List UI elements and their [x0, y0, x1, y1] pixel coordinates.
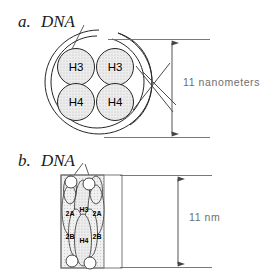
micro-label-2a-right: 2A	[93, 210, 102, 217]
dna-tail-strand-2	[133, 63, 170, 110]
panel-b-dimension: 11 nm	[120, 176, 220, 268]
dna-circle-top-right	[83, 178, 95, 190]
panel-b-dimension-text: 11 nm	[189, 211, 220, 223]
panel-a: a. DNA H3 H3 H4 H4	[18, 12, 260, 138]
micro-label-2b-right: 2B	[93, 233, 102, 240]
dna-tail-strand-1	[136, 66, 173, 112]
panel-a-dimension-text: 11 nanometers	[183, 76, 260, 88]
panel-b-letter: b.	[18, 151, 31, 170]
micro-label-h4: H4	[80, 237, 89, 244]
nucleosome-figure: a. DNA H3 H3 H4 H4	[0, 0, 266, 279]
dna-circle-bottom-right	[84, 257, 96, 269]
histone-label-h4-left: H4	[69, 96, 84, 108]
micro-label-2b-left: 2B	[66, 233, 75, 240]
panel-b: b. DNA	[18, 151, 220, 269]
histone-label-h4-right: H4	[108, 96, 123, 108]
histone-label-h3-right: H3	[108, 61, 123, 73]
panel-b-dna-label: DNA	[40, 151, 76, 170]
panel-a-dna-label: DNA	[40, 12, 76, 31]
micro-label-h3: H3	[80, 206, 89, 213]
dna-circle-top-left	[65, 176, 77, 188]
dna-circle-bottom-left	[66, 255, 78, 267]
dna-coil-outer	[45, 30, 152, 134]
panel-a-letter: a.	[18, 12, 31, 31]
histone-label-h3-left: H3	[69, 61, 84, 73]
figure-canvas: a. DNA H3 H3 H4 H4	[0, 0, 266, 279]
micro-label-2a-left: 2A	[66, 210, 75, 217]
